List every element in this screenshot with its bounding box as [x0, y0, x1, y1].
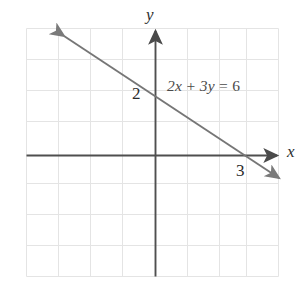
y-axis-label: y [146, 6, 154, 23]
x-axis-label: x [287, 143, 295, 160]
coordinate-plane-figure: y x 2 3 2x + 3y = 6 [0, 0, 308, 287]
equation-term-2: 3y [200, 77, 215, 94]
x-intercept-label: 3 [236, 162, 245, 179]
equation-label: 2x + 3y = 6 [167, 78, 240, 94]
graph-canvas [0, 0, 308, 287]
equation-result: 6 [232, 77, 240, 94]
y-intercept-label: 2 [132, 85, 141, 102]
equation-equals-sign: = [219, 77, 228, 94]
equation-term-1: 2x [167, 77, 182, 94]
